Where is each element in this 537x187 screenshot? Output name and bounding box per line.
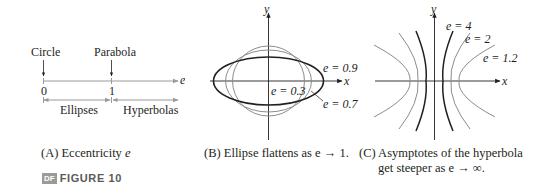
ellipse-plot: x y e = 0.9 e = 0.3 e = 0.7 [180,0,360,145]
label-e-1-2: e = 1.2 [483,51,517,65]
df-badge: DF [42,173,57,184]
caption-a: (A) Eccentricity e [41,146,131,161]
x-axis-label: x [501,74,508,88]
hyperbolas-label: Hyperbolas [123,103,179,117]
label-e-4: e = 4 [446,19,471,33]
y-axis-label: y [430,2,437,16]
hyperbola-plot: x y e = 4 e = 2 e = 1.2 [357,0,537,145]
figure-label: DF FIGURE 10 [42,172,122,184]
parabola-label: Parabola [94,45,137,59]
y-axis-label: y [263,2,270,16]
figure-number: FIGURE 10 [60,172,122,184]
caption-b: (B) Ellipse flattens as e → 1. [204,146,349,161]
label-e-0-3: e = 0.3 [271,84,305,98]
eccentricity-number-line: Circle Parabola e 0 1 Ellipses Hyperbola… [0,0,185,130]
caption-c: (C) Asymptotes of the hyperbola get stee… [359,146,523,176]
circle-label: Circle [31,45,60,59]
tick-1: 1 [109,84,115,98]
ellipses-label: Ellipses [60,103,98,117]
tick-0: 0 [41,84,47,98]
label-e-0-9: e = 0.9 [323,61,357,75]
label-e-0-7: e = 0.7 [323,97,358,111]
x-axis-label: x [343,74,350,88]
label-e-2: e = 2 [465,32,490,46]
